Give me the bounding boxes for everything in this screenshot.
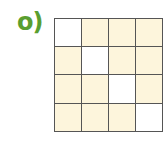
grid-cell-3-1 [82,104,109,132]
grid-cell-3-3 [136,104,163,132]
exercise-label: o) [17,8,42,36]
grid-cell-0-0 [55,19,82,47]
grid-cell-3-0 [55,104,82,132]
grid-cell-3-2 [109,104,136,132]
grid-cell-1-1 [82,47,109,75]
grid-cell-1-3 [136,47,163,75]
grid-cell-2-1 [82,75,109,104]
square-grid [54,18,163,132]
grid-cell-0-1 [82,19,109,47]
grid-cell-2-0 [55,75,82,104]
grid-cell-0-3 [136,19,163,47]
grid-cell-1-0 [55,47,82,75]
grid-cell-2-3 [136,75,163,104]
grid-cell-2-2 [109,75,136,104]
grid-cell-1-2 [109,47,136,75]
grid-cell-0-2 [109,19,136,47]
